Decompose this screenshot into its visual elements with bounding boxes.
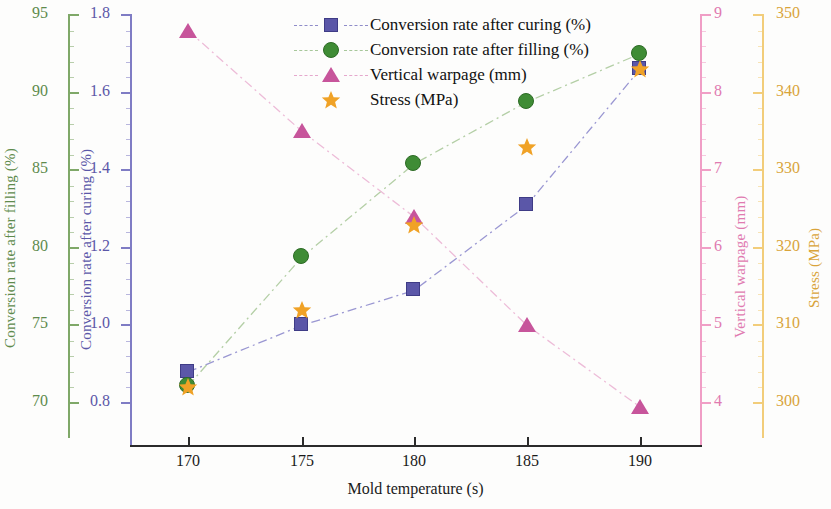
axis-minor-tick — [758, 186, 762, 187]
axis-minor-tick — [70, 341, 74, 342]
legend-label: Vertical warpage (mm) — [370, 65, 527, 85]
data-point-square — [180, 364, 194, 378]
data-point-triangle — [518, 317, 536, 332]
data-point-circle — [405, 155, 421, 171]
axis-tick — [702, 324, 711, 326]
axis-minor-tick — [70, 387, 74, 388]
axis-minor-tick — [70, 108, 74, 109]
axis-minor-tick — [702, 356, 706, 357]
legend-marker-circle — [292, 39, 370, 61]
axis-minor-tick — [702, 201, 706, 202]
axis-minor-tick — [758, 310, 762, 311]
x-axis-tick-label: 185 — [515, 452, 539, 470]
axis-tick — [753, 169, 762, 171]
x-axis-tick-label: 180 — [402, 452, 426, 470]
axis-tick — [121, 402, 130, 404]
axis-minor-tick — [70, 294, 74, 295]
axis-minor-tick — [70, 139, 74, 140]
axis-tick-label: 0.8 — [0, 392, 122, 410]
axis-minor-tick — [702, 186, 706, 187]
data-point-star — [630, 59, 650, 83]
legend-item-conversion-after-curing: Conversion rate after curing (%) — [292, 12, 622, 37]
axis-tick — [121, 324, 130, 326]
x-axis-tick-label: 175 — [290, 452, 314, 470]
axis-minor-tick — [758, 201, 762, 202]
legend-marker-square — [292, 14, 370, 36]
axis-tick-label: 1.0 — [0, 314, 122, 332]
axis-minor-tick — [758, 77, 762, 78]
data-point-star — [517, 137, 537, 161]
axis-minor-tick — [702, 62, 706, 63]
axis-tick — [753, 324, 762, 326]
data-point-star — [292, 300, 312, 324]
axis-tick-label: 1.4 — [0, 159, 122, 177]
axis-tick — [753, 247, 762, 249]
axis-tick — [121, 247, 130, 249]
axis-minor-tick — [758, 139, 762, 140]
axis-minor-tick — [70, 201, 74, 202]
axis-minor-tick — [702, 294, 706, 295]
axis-spine-stress — [762, 14, 764, 438]
axis-tick — [121, 14, 130, 16]
axis-minor-tick — [758, 155, 762, 156]
axis-minor-tick — [702, 387, 706, 388]
legend-label: Conversion rate after curing (%) — [370, 15, 591, 35]
axis-tick-label: 8 — [714, 82, 722, 100]
axis-minor-tick — [758, 294, 762, 295]
axis-tick-label: 340 — [776, 82, 800, 100]
axis-title-stress: Stress (MPa) — [806, 178, 823, 308]
axis-minor-tick — [70, 263, 74, 264]
axis-minor-tick — [702, 108, 706, 109]
axis-minor-tick — [702, 77, 706, 78]
axis-tick — [753, 14, 762, 16]
axis-tick-label: 1.8 — [0, 4, 122, 22]
data-point-triangle — [631, 399, 649, 414]
axis-minor-tick — [702, 310, 706, 311]
legend-item-vertical-warpage: Vertical warpage (mm) — [292, 62, 622, 87]
axis-minor-tick — [70, 124, 74, 125]
axis-minor-tick — [702, 46, 706, 47]
axis-minor-tick — [70, 372, 74, 373]
data-point-square — [519, 197, 533, 211]
axis-minor-tick — [70, 217, 74, 218]
legend-marker-triangle — [292, 64, 370, 86]
data-point-star — [178, 377, 198, 401]
x-axis-tick — [302, 437, 304, 446]
axis-minor-tick — [70, 155, 74, 156]
axis-minor-tick — [758, 387, 762, 388]
axis-tick-label: 300 — [776, 392, 800, 410]
axis-minor-tick — [70, 46, 74, 47]
x-axis-tick — [414, 437, 416, 446]
axis-minor-tick — [758, 217, 762, 218]
axis-minor-tick — [702, 155, 706, 156]
axis-tick-label: 1.6 — [0, 82, 122, 100]
axis-minor-tick — [758, 279, 762, 280]
axis-minor-tick — [758, 108, 762, 109]
legend-marker-star — [292, 89, 370, 111]
axis-tick-label: 310 — [776, 314, 800, 332]
axis-tick-label: 350 — [776, 4, 800, 22]
x-axis-tick — [188, 437, 190, 446]
axis-tick — [702, 169, 711, 171]
data-point-triangle — [179, 23, 197, 38]
axis-tick — [121, 92, 130, 94]
axis-tick — [753, 92, 762, 94]
axis-minor-tick — [70, 62, 74, 63]
axis-tick-label: 9 — [714, 4, 722, 22]
axis-minor-tick — [702, 139, 706, 140]
data-point-star — [404, 215, 424, 239]
axis-minor-tick — [702, 124, 706, 125]
x-axis-tick — [640, 437, 642, 446]
axis-tick-label: 5 — [714, 314, 722, 332]
axis-tick-label: 330 — [776, 159, 800, 177]
axis-minor-tick — [758, 31, 762, 32]
axis-tick — [121, 169, 130, 171]
x-axis-line — [130, 445, 702, 447]
data-point-square — [406, 282, 420, 296]
axis-tick-label: 1.2 — [0, 237, 122, 255]
legend-item-conversion-after-filling: Conversion rate after filling (%) — [292, 37, 622, 62]
axis-tick-label: 7 — [714, 159, 722, 177]
axis-title-vertical-warpage: Vertical warpage (mm) — [732, 148, 749, 338]
axis-tick — [753, 402, 762, 404]
axis-minor-tick — [702, 372, 706, 373]
